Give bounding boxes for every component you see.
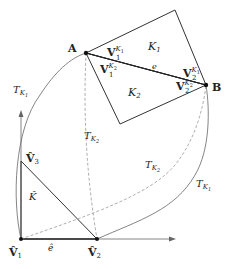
map-T-K2-mid <box>85 53 97 239</box>
label-B: B <box>212 81 221 94</box>
label-V3-hat: V̂3 <box>25 152 39 166</box>
label-T-K1-right: TK1 <box>196 178 211 192</box>
label-T-K1-left: TK1 <box>13 84 28 98</box>
reference-axes <box>19 110 177 242</box>
vertex-V1-hat-dot <box>19 237 23 241</box>
label-K-hat: K̂ <box>28 191 37 202</box>
map-T-K1-right <box>97 85 208 239</box>
label-K2: K2 <box>127 86 141 100</box>
label-V1-K2: VK21 <box>99 62 117 79</box>
x-axis-arrow-icon <box>169 237 176 242</box>
label-V2-hat: V̂2 <box>87 246 101 260</box>
label-K1: K1 <box>147 40 161 54</box>
label-T-K2-mid: TK2 <box>84 130 99 144</box>
map-T-K2-right <box>21 85 206 239</box>
vertex-B-dot <box>204 83 208 87</box>
vertex-A-dot <box>84 51 88 55</box>
label-T-K2-right: TK2 <box>145 159 160 173</box>
label-e-hat: ê <box>48 243 53 253</box>
label-V1-hat: V̂1 <box>8 246 22 260</box>
diagram-canvas: A B K1 K2 e VK11 VK21 VK12 VK22 TK1 TK2 … <box>0 0 232 269</box>
label-e: e <box>152 62 157 71</box>
y-axis-arrow-icon <box>19 110 24 117</box>
map-T-K1-left <box>16 53 86 239</box>
label-A: A <box>67 42 77 55</box>
vertex-V2-hat-dot <box>95 237 99 241</box>
